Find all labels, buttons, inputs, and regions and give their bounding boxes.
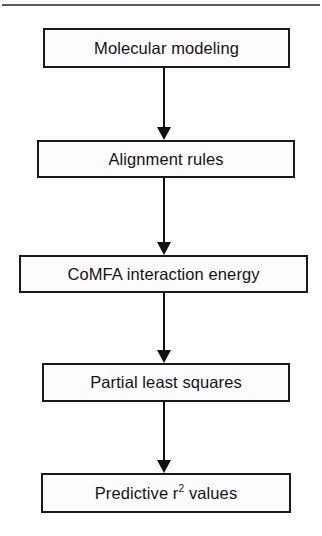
flowchart-figure: Molecular modeling Alignment rules CoMFA…	[0, 0, 322, 536]
node-label: Molecular modeling	[94, 39, 239, 56]
flowchart-node-alignment-rules: Alignment rules	[37, 140, 295, 178]
flowchart-arrow-1	[163, 68, 165, 140]
node-label-prefix: Predictive r	[95, 483, 179, 501]
arrow-shaft	[163, 293, 165, 352]
horizontal-rule	[2, 4, 320, 6]
arrow-head-icon	[157, 350, 171, 363]
node-label: CoMFA interaction energy	[67, 265, 259, 282]
node-label: Predictive r2 values	[95, 484, 238, 501]
arrow-head-icon	[157, 242, 171, 255]
node-label-suffix: values	[184, 483, 237, 501]
flowchart-node-molecular-modeling: Molecular modeling	[43, 28, 290, 68]
arrow-shaft	[163, 402, 165, 462]
node-label: Alignment rules	[108, 150, 223, 167]
arrow-shaft	[163, 68, 165, 129]
flowchart-node-partial-least-squares: Partial least squares	[42, 363, 290, 402]
flowchart-node-predictive-r2-values: Predictive r2 values	[41, 473, 291, 513]
flowchart-arrow-2	[163, 178, 165, 255]
flowchart-node-comfa-interaction-energy: CoMFA interaction energy	[19, 255, 308, 293]
flowchart-arrow-4	[163, 402, 165, 473]
arrow-shaft	[163, 178, 165, 244]
flowchart-arrow-3	[163, 293, 165, 363]
arrow-head-icon	[157, 460, 171, 473]
arrow-head-icon	[157, 127, 171, 140]
node-label: Partial least squares	[90, 374, 242, 391]
